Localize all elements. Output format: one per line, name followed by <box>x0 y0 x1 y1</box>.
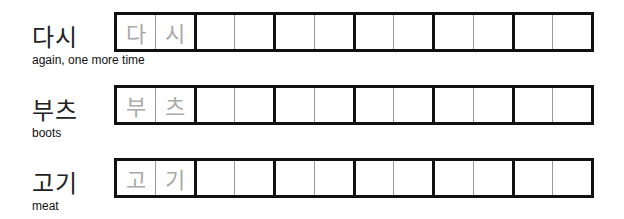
trace-cell: 다 <box>117 15 155 49</box>
blank-cell[interactable] <box>197 88 235 122</box>
cell-pair <box>273 88 353 122</box>
blank-cell[interactable] <box>314 15 353 49</box>
trace-cell: 츠 <box>155 88 194 122</box>
vocab-word: 다시 <box>32 18 78 53</box>
cell-pair <box>353 15 433 49</box>
trace-cell: 기 <box>155 161 194 195</box>
blank-cell[interactable] <box>276 88 314 122</box>
blank-cell[interactable] <box>515 15 553 49</box>
cell-pair <box>512 161 592 195</box>
vocab-word: 부츠 <box>32 91 78 126</box>
blank-cell[interactable] <box>393 88 432 122</box>
cell-pair <box>432 161 512 195</box>
blank-cell[interactable] <box>234 88 273 122</box>
blank-cell[interactable] <box>197 161 235 195</box>
trace-cell: 부 <box>117 88 155 122</box>
vocab-gloss: meat <box>32 199 59 213</box>
blank-cell[interactable] <box>473 15 512 49</box>
blank-cell[interactable] <box>276 15 314 49</box>
practice-row-2: 부츠 boots 부츠 <box>0 73 624 143</box>
practice-row-3: 고기 meat 고기 <box>0 146 624 216</box>
blank-cell[interactable] <box>473 161 512 195</box>
blank-cell[interactable] <box>435 15 473 49</box>
cell-pair <box>273 161 353 195</box>
blank-cell[interactable] <box>356 88 394 122</box>
cell-pair <box>353 88 433 122</box>
blank-cell[interactable] <box>473 88 512 122</box>
blank-cell[interactable] <box>356 161 394 195</box>
blank-cell[interactable] <box>276 161 314 195</box>
blank-cell[interactable] <box>552 161 591 195</box>
trace-cell: 고 <box>117 161 155 195</box>
vocab-gloss: boots <box>32 126 61 140</box>
cell-pair <box>432 15 512 49</box>
cell-pair: 고기 <box>117 161 194 195</box>
blank-cell[interactable] <box>234 161 273 195</box>
writing-grid: 다시 <box>114 12 594 52</box>
blank-cell[interactable] <box>515 161 553 195</box>
blank-cell[interactable] <box>435 161 473 195</box>
blank-cell[interactable] <box>552 15 591 49</box>
blank-cell[interactable] <box>314 161 353 195</box>
cell-pair <box>273 15 353 49</box>
blank-cell[interactable] <box>515 88 553 122</box>
writing-grid: 부츠 <box>114 85 594 125</box>
blank-cell[interactable] <box>356 15 394 49</box>
trace-cell: 시 <box>155 15 194 49</box>
cell-pair <box>194 15 274 49</box>
vocab-word: 고기 <box>32 164 78 199</box>
blank-cell[interactable] <box>197 15 235 49</box>
practice-row-1: 다시 again, one more time 다시 <box>0 0 624 70</box>
cell-pair <box>353 161 433 195</box>
blank-cell[interactable] <box>552 88 591 122</box>
blank-cell[interactable] <box>393 15 432 49</box>
cell-pair <box>512 88 592 122</box>
blank-cell[interactable] <box>314 88 353 122</box>
writing-grid: 고기 <box>114 158 594 198</box>
cell-pair <box>194 88 274 122</box>
blank-cell[interactable] <box>393 161 432 195</box>
blank-cell[interactable] <box>234 15 273 49</box>
cell-pair: 부츠 <box>117 88 194 122</box>
vocab-gloss: again, one more time <box>32 53 145 67</box>
cell-pair <box>194 161 274 195</box>
cell-pair <box>432 88 512 122</box>
cell-pair: 다시 <box>117 15 194 49</box>
blank-cell[interactable] <box>435 88 473 122</box>
cell-pair <box>512 15 592 49</box>
